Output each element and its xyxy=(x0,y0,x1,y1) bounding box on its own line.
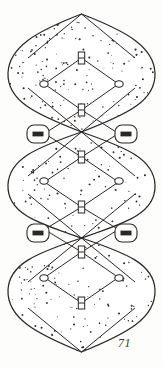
stipple-dot xyxy=(22,190,23,191)
stipple-dot xyxy=(16,24,17,25)
stipple-dot xyxy=(49,361,50,362)
stipple-dot xyxy=(102,290,104,292)
stipple-dot xyxy=(71,225,73,227)
stipple-dot xyxy=(90,142,92,144)
stipple-dot xyxy=(107,317,108,318)
stipple-dot xyxy=(43,34,45,36)
stipple-dot xyxy=(84,27,86,29)
stipple-dot xyxy=(45,162,47,164)
stipple-dot xyxy=(22,62,24,64)
stipple-dot xyxy=(7,318,9,320)
stipple-dot xyxy=(0,238,2,240)
stipple-dot xyxy=(130,248,131,249)
stipple-dot xyxy=(117,13,119,15)
stipple-dot xyxy=(98,227,100,229)
stipple-dot xyxy=(86,75,87,76)
stipple-dot xyxy=(47,28,48,29)
stipple-dot xyxy=(47,79,48,80)
stipple-dot xyxy=(1,93,3,95)
stipple-dot xyxy=(96,135,98,137)
stipple-dot xyxy=(123,23,124,24)
stipple-dot xyxy=(131,308,133,310)
stipple-dot xyxy=(78,22,79,23)
stipple-dot xyxy=(61,134,62,135)
stipple-dot xyxy=(31,95,33,97)
stipple-dot xyxy=(148,305,149,306)
stipple-dot xyxy=(45,17,46,18)
stipple-dot xyxy=(143,5,144,6)
stipple-dot xyxy=(80,341,82,343)
stipple-dot xyxy=(37,144,39,146)
stipple-dot xyxy=(23,134,24,135)
stipple-dot xyxy=(158,95,160,97)
stipple-dot xyxy=(102,106,104,108)
stipple-dot xyxy=(82,49,84,51)
stipple-dot xyxy=(4,118,5,119)
stipple-dot xyxy=(30,271,32,273)
stipple-dot xyxy=(57,24,59,26)
stipple-dot xyxy=(141,232,142,233)
stipple-dot xyxy=(46,59,48,61)
stipple-dot xyxy=(25,330,27,332)
stipple-dot xyxy=(42,7,44,9)
stipple-dot xyxy=(15,108,16,109)
stipple-dot xyxy=(8,85,9,86)
stipple-dot xyxy=(111,363,112,364)
stipple-dot xyxy=(159,320,160,321)
stipple-dot xyxy=(20,252,22,254)
stipple-dot xyxy=(0,251,1,252)
stipple-dot xyxy=(0,292,1,293)
stipple-dot xyxy=(102,233,104,235)
stipple-dot xyxy=(25,201,27,203)
stipple-dot xyxy=(52,16,54,18)
stipple-dot xyxy=(30,281,31,282)
stipple-dot xyxy=(71,26,72,27)
stipple-dot xyxy=(93,179,95,181)
stipple-dot xyxy=(35,36,37,38)
stipple-dot xyxy=(75,356,77,358)
stipple-dot xyxy=(30,288,31,289)
stipple-dot xyxy=(110,17,112,19)
stipple-dot xyxy=(21,289,22,290)
stipple-dot xyxy=(89,69,90,70)
stipple-dot xyxy=(75,353,76,354)
stipple-dot xyxy=(147,326,148,327)
stipple-dot xyxy=(57,118,59,120)
stipple-dot xyxy=(29,197,31,199)
stipple-dot xyxy=(162,272,163,273)
stipple-dot xyxy=(10,209,11,210)
stipple-dot xyxy=(55,89,56,90)
stipple-dot xyxy=(137,177,139,179)
stipple-dot xyxy=(123,154,125,156)
stipple-dot xyxy=(56,193,58,195)
h-connector-4 xyxy=(78,201,84,213)
stipple-dot xyxy=(135,99,136,100)
stipple-dot xyxy=(87,325,88,326)
stipple-dot xyxy=(27,148,28,149)
stipple-dot xyxy=(97,360,99,362)
stipple-dot xyxy=(156,223,158,225)
stipple-dot xyxy=(162,358,163,359)
stipple-dot xyxy=(151,301,152,302)
stipple-dot xyxy=(30,51,32,53)
stipple-dot xyxy=(63,177,65,179)
stipple-dot xyxy=(136,96,138,98)
stipple-dot xyxy=(61,62,62,63)
stipple-dot xyxy=(149,238,150,239)
stipple-dot xyxy=(46,66,48,68)
h-connector-5 xyxy=(78,246,84,258)
stipple-dot xyxy=(55,81,57,83)
stipple-dot xyxy=(79,116,80,117)
stipple-dot xyxy=(24,138,26,140)
stipple-dot xyxy=(150,135,152,137)
stipple-dot xyxy=(72,215,73,216)
stipple-dot xyxy=(64,203,66,205)
stipple-dot xyxy=(3,298,4,299)
stipple-dot xyxy=(20,217,22,219)
stipple-dot xyxy=(62,64,63,65)
stipple-dot xyxy=(137,115,139,117)
stipple-dot xyxy=(94,257,96,259)
stipple-dot xyxy=(44,265,46,267)
stipple-dot xyxy=(96,256,97,257)
lozenge-bar xyxy=(33,132,44,137)
